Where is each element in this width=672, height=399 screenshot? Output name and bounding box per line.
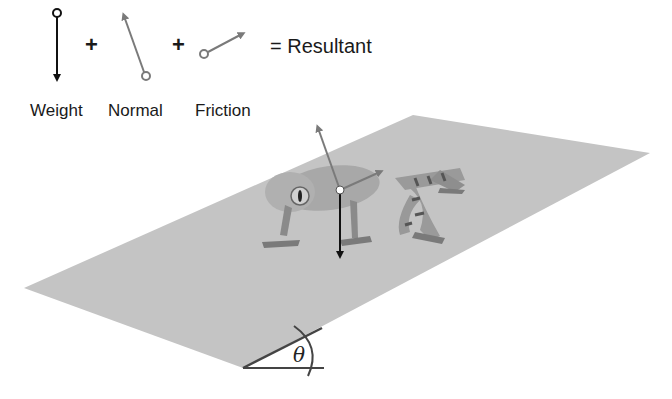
- plus-sign-1: +: [85, 32, 98, 57]
- legend-normal-vector: [124, 16, 150, 80]
- legend-weight-vector: [53, 9, 61, 78]
- plus-sign-2: +: [172, 32, 185, 57]
- center-of-mass-point: [336, 186, 344, 194]
- legend-friction-vector: [200, 34, 242, 58]
- diagram-canvas: θ: [0, 0, 672, 399]
- inclined-plane: [24, 115, 650, 368]
- resultant-label: = Resultant: [270, 35, 372, 57]
- weight-label: Weight: [30, 101, 83, 120]
- normal-label: Normal: [108, 101, 163, 120]
- friction-label: Friction: [195, 101, 251, 120]
- angle-theta-label: θ: [293, 343, 305, 367]
